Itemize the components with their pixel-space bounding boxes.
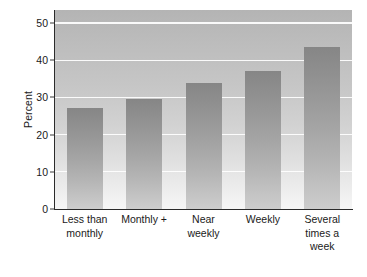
x-axis-tick-labels: Less than monthlyMonthly +Near weeklyWee… <box>55 213 352 277</box>
y-tick-label: 0 <box>30 203 48 215</box>
bar <box>186 83 222 209</box>
y-tick-mark <box>50 23 54 24</box>
y-tick-mark <box>50 97 54 98</box>
x-tick-label: Several times a week <box>286 213 359 254</box>
plot-area <box>55 10 352 209</box>
y-axis-tick-labels: 01020304050 <box>30 0 48 277</box>
x-axis-line <box>54 209 353 210</box>
y-tick-mark <box>50 209 54 210</box>
gridline <box>55 22 352 23</box>
y-tick-mark <box>50 171 54 172</box>
bar <box>67 108 103 209</box>
y-tick-label: 20 <box>30 129 48 141</box>
y-tick-label: 30 <box>30 91 48 103</box>
bar <box>304 47 340 209</box>
bar <box>126 99 162 209</box>
y-tick-label: 10 <box>30 166 48 178</box>
y-tick-label: 40 <box>30 54 48 66</box>
bar <box>245 71 281 209</box>
y-tick-mark <box>50 134 54 135</box>
bar-chart-figure: Percent 01020304050 Less than monthlyMon… <box>0 0 367 277</box>
y-tick-label: 50 <box>30 17 48 29</box>
y-tick-mark <box>50 60 54 61</box>
